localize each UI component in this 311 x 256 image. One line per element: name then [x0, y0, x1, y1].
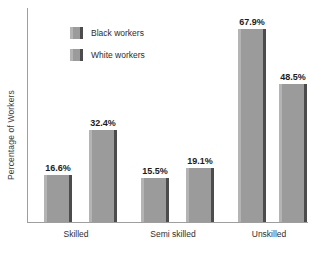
- x-axis-line: [27, 222, 308, 223]
- legend: Black workers White workers: [70, 27, 145, 71]
- bar-highlight: [238, 29, 241, 222]
- bar-value-semi-skilled-black: 15.5%: [132, 166, 178, 176]
- bar-highlight: [44, 175, 47, 222]
- legend-item-white-workers: White workers: [70, 49, 145, 61]
- legend-swatch-icon: [70, 27, 83, 39]
- legend-label-black-workers: Black workers: [91, 28, 144, 38]
- swatch-highlight: [70, 49, 73, 61]
- legend-item-black-workers: Black workers: [70, 27, 145, 39]
- bar-unskilled-white: [279, 84, 307, 222]
- legend-label-white-workers: White workers: [91, 50, 145, 60]
- bar-highlight: [279, 84, 282, 222]
- x-axis-category-unskilled: Unskilled: [224, 229, 311, 239]
- y-axis-label: Percentage of Workers: [6, 60, 24, 210]
- bar-skilled-black: [44, 175, 72, 222]
- swatch-highlight: [70, 27, 73, 39]
- bar-highlight: [89, 130, 92, 222]
- bar-skilled-white: [89, 130, 117, 222]
- legend-swatch-icon: [70, 49, 83, 61]
- y-axis-label-container: Percentage of Workers: [0, 60, 18, 210]
- bar-value-unskilled-black: 67.9%: [229, 17, 275, 27]
- bar-semi-skilled-black: [141, 178, 169, 222]
- bar-chart: Percentage of Workers 16.6% 32.4% 15.5% …: [0, 0, 311, 256]
- bar-value-semi-skilled-white: 19.1%: [177, 156, 223, 166]
- bar-highlight: [141, 178, 144, 222]
- bar-value-unskilled-white: 48.5%: [270, 72, 311, 82]
- x-axis-category-semi-skilled: Semi skilled: [128, 229, 218, 239]
- bar-unskilled-black: [238, 29, 266, 222]
- bar-value-skilled-white: 32.4%: [80, 118, 126, 128]
- bar-value-skilled-black: 16.6%: [35, 163, 81, 173]
- x-axis-category-skilled: Skilled: [31, 229, 121, 239]
- bar-semi-skilled-white: [186, 168, 214, 222]
- plot-area: 16.6% 32.4% 15.5% 19.1% 67.9% 48.5%: [28, 8, 308, 222]
- bar-highlight: [186, 168, 189, 222]
